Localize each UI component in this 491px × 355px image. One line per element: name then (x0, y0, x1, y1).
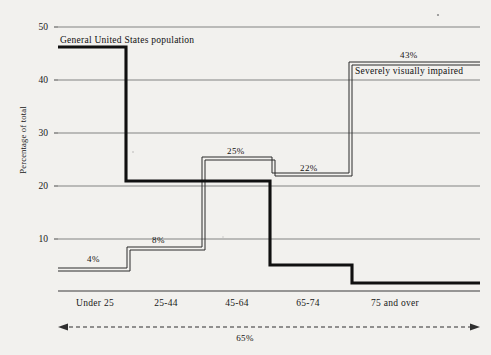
chart-container: 50 40 30 20 10 Percentage of total 4% 8%… (0, 0, 491, 355)
x-category-label-75-and-over: 75 and over (371, 298, 420, 308)
y-tick-label-30: 30 (39, 128, 49, 138)
value-label-43pct: 43% (400, 50, 418, 60)
x-category-label-25-44: 25-44 (154, 298, 178, 308)
step-chart-svg: 50 40 30 20 10 Percentage of total 4% 8%… (0, 0, 491, 355)
paper-speck (437, 14, 439, 16)
y-axis-title: Percentage of total (18, 106, 28, 174)
series-label-general-population: General United States population (60, 35, 194, 45)
x-category-label-under-25: Under 25 (76, 298, 114, 308)
series-label-visually-impaired: Severely visually impaired (355, 66, 463, 76)
value-label-4pct: 4% (87, 254, 100, 264)
value-label-22pct: 22% (300, 163, 318, 173)
y-tick-label-50: 50 (39, 22, 49, 32)
y-tick-label-20: 20 (39, 181, 49, 191)
x-category-label-45-64: 45-64 (225, 298, 249, 308)
value-label-8pct: 8% (152, 235, 165, 245)
paper-speck (222, 236, 223, 237)
y-tick-label-10: 10 (39, 234, 49, 244)
x-category-label-65-74: 65-74 (296, 298, 320, 308)
value-label-25pct: 25% (227, 146, 245, 156)
paper-speck (132, 151, 134, 153)
y-tick-label-40: 40 (39, 75, 49, 85)
span-arrow-value: 65% (236, 333, 254, 343)
